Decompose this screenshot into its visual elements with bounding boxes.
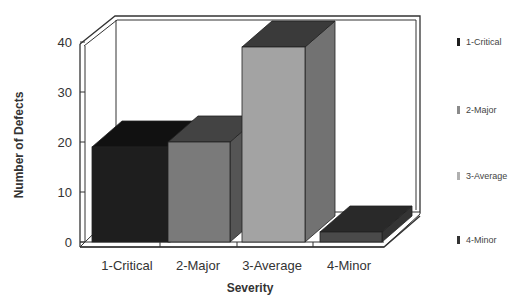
bar-chart-3d: 010203040 1-Critical2-Major3-Average4-Mi…: [0, 0, 515, 307]
legend-label: 1-Critical: [466, 37, 502, 47]
legend-item: 1-Critical: [457, 37, 502, 47]
y-tick-label: 10: [58, 185, 72, 200]
x-axis-title: Severity: [227, 281, 274, 295]
x-tick-label: 2-Major: [176, 258, 221, 273]
legend-swatch: [457, 236, 460, 244]
legend: 1-Critical2-Major3-Average4-Minor: [457, 37, 507, 245]
legend-swatch: [457, 172, 460, 180]
y-tick-label: 40: [58, 35, 72, 50]
bars: [92, 21, 412, 242]
bar-3-average: [242, 21, 335, 242]
legend-swatch: [457, 106, 460, 114]
x-tick-label: 3-Average: [242, 258, 302, 273]
legend-label: 3-Average: [466, 171, 507, 181]
legend-item: 3-Average: [457, 171, 507, 181]
legend-item: 4-Minor: [457, 235, 497, 245]
y-axis-ticks: 010203040: [58, 35, 85, 250]
legend-label: 2-Major: [466, 105, 497, 115]
y-tick-label: 30: [58, 85, 72, 100]
x-tick-label: 4-Minor: [327, 258, 372, 273]
legend-label: 4-Minor: [466, 235, 497, 245]
legend-swatch: [457, 38, 460, 46]
y-tick-label: 20: [58, 135, 72, 150]
y-tick-label: 0: [65, 235, 72, 250]
x-tick-label: 1-Critical: [101, 258, 152, 273]
y-axis-title: Number of Defects: [12, 91, 26, 198]
legend-item: 2-Major: [457, 105, 497, 115]
